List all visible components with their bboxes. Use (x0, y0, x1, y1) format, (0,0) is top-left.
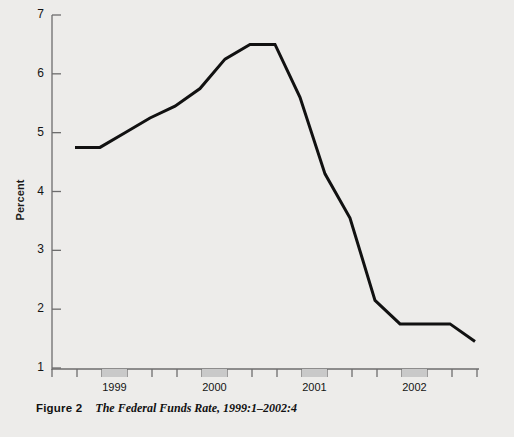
y-axis-tick-label: 6 (22, 66, 44, 80)
y-axis-title-text: Percent (14, 160, 26, 240)
year-band (202, 369, 227, 377)
y-axis-tick-label: 2 (22, 301, 44, 315)
y-axis-tick-label: 7 (22, 7, 44, 21)
y-axis-tick-label: 5 (22, 125, 44, 139)
data-line-federal-funds-rate (75, 44, 475, 341)
y-axis-tick-label: 3 (22, 242, 44, 256)
y-axis-tick-label: 4 (22, 184, 44, 198)
year-band (102, 369, 127, 377)
figure-title: The Federal Funds Rate, 1999:1–2002:4 (95, 401, 297, 415)
y-axis-title: Percent (14, 80, 26, 160)
x-axis-tick-label: 2002 (385, 381, 445, 393)
year-band-markers (102, 369, 427, 377)
figure-number: Figure 2 (36, 402, 82, 414)
year-band (302, 369, 327, 377)
year-band (402, 369, 427, 377)
figure-caption: Figure 2The Federal Funds Rate, 1999:1–2… (36, 398, 297, 416)
chart-plot-area (0, 0, 514, 437)
x-axis-tick-label: 2001 (285, 381, 345, 393)
figure-container: Percent 1234567 1999200020012002 Figure … (0, 0, 514, 437)
y-axis-tick-label: 1 (22, 360, 44, 374)
y-axis-ticks (52, 15, 61, 368)
x-axis-tick-label: 2000 (185, 381, 245, 393)
x-axis-tick-label: 1999 (85, 381, 145, 393)
